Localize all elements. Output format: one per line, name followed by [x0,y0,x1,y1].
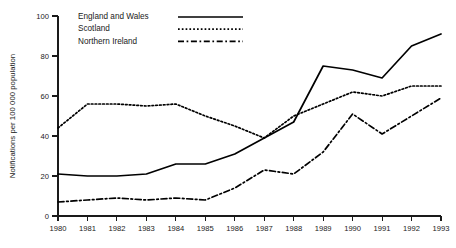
y-tick-label: 20 [41,172,49,181]
legend-label-scotland: Scotland [78,24,110,33]
x-tick-label: 1990 [344,224,361,233]
y-axis-title: Notifications per 100 000 population [8,54,17,178]
data-series-group [58,34,441,202]
x-axis-ticks: 1980198119821983198419851986198719881989… [50,216,450,233]
x-tick-label: 1986 [226,224,243,233]
x-tick-label: 1984 [167,224,184,233]
x-tick-label: 1983 [138,224,155,233]
x-tick-label: 1989 [315,224,332,233]
x-tick-label: 1980 [50,224,67,233]
chart-legend: England and WalesScotlandNorthern Irelan… [78,12,243,45]
y-tick-label: 80 [41,52,49,61]
x-tick-label: 1985 [197,224,214,233]
x-tick-label: 1988 [285,224,302,233]
y-tick-label: 40 [41,132,49,141]
line-chart-plot: 020406080100 Notifications per 100 000 p… [0,0,456,248]
x-tick-label: 1982 [108,224,125,233]
chart-figure: 020406080100 Notifications per 100 000 p… [0,0,456,248]
x-tick-label: 1993 [433,224,450,233]
y-axis: 020406080100 Notifications per 100 000 p… [8,12,58,221]
series-line-scotland [58,86,441,138]
x-tick-label: 1981 [79,224,96,233]
y-axis-ticks: 020406080100 [36,12,58,221]
x-axis: 1980198119821983198419851986198719881989… [50,216,450,233]
x-tick-label: 1992 [403,224,420,233]
y-tick-label: 0 [45,212,49,221]
legend-label-england-and-wales: England and Wales [78,12,149,21]
y-tick-label: 60 [41,92,49,101]
x-tick-label: 1987 [256,224,273,233]
legend-label-northern-ireland: Northern Ireland [78,37,138,46]
series-line-england-and-wales [58,34,441,176]
x-tick-label: 1991 [374,224,391,233]
y-tick-label: 100 [36,12,49,21]
series-line-northern-ireland [58,98,441,202]
